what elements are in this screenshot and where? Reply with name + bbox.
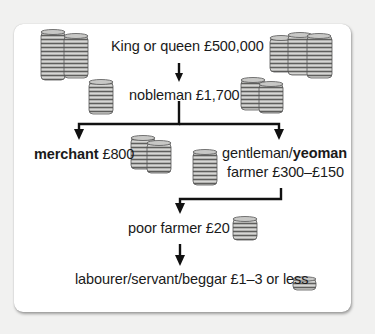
merchant-income: £800 xyxy=(102,146,134,162)
coin-stack-icon-gentleman xyxy=(193,150,217,186)
label-merchant: merchant £800 xyxy=(34,146,134,162)
coin-stack-icon-king-left xyxy=(41,30,88,81)
coin-stack-icon-nobleman-left xyxy=(89,80,113,115)
label-gentleman-line2: farmer £300–£150 xyxy=(227,164,344,180)
label-poor-farmer: poor farmer £20 xyxy=(128,220,230,236)
coin-stack-icon-nobleman-right xyxy=(241,78,283,114)
label-labourer: labourer/servant/beggar £1–3 or less xyxy=(75,271,308,287)
label-king: King or queen £500,000 xyxy=(111,38,264,54)
coin-stack-icon-poor-farmer xyxy=(233,217,257,241)
label-nobleman: nobleman £1,700 xyxy=(129,87,240,103)
coin-stack-icon-king-right xyxy=(270,33,332,79)
yeoman-role: yeoman xyxy=(293,145,347,161)
merchant-role: merchant xyxy=(34,146,98,162)
coin-stack-icon-merchant xyxy=(131,136,171,174)
gentleman-role: gentleman/ xyxy=(222,145,293,161)
label-gentleman: gentleman/yeoman xyxy=(222,145,347,161)
